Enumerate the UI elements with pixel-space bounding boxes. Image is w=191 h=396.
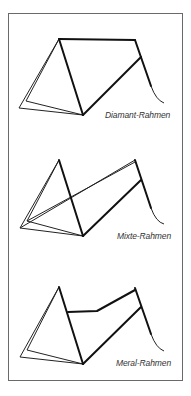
diamant-frame-drawing	[19, 39, 164, 115]
meral-frame-drawing	[20, 287, 164, 364]
frame-diagrams	[0, 0, 191, 396]
meral-frame-label: Meral-Rahmen	[116, 358, 171, 368]
mixte-frame-label: Mixte-Rahmen	[117, 231, 171, 241]
mixte-frame-drawing	[20, 160, 164, 236]
diamant-frame-label: Diamant-Rahmen	[105, 110, 170, 120]
